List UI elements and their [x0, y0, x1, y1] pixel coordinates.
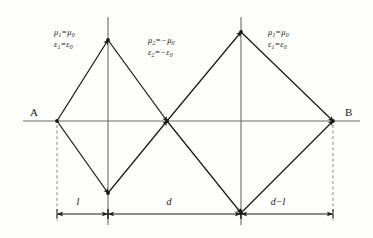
dimension-line-group	[57, 209, 333, 219]
ray-path-group	[57, 32, 333, 213]
node-left-bottom-vertex	[106, 191, 110, 195]
lower-right-segment-2	[241, 121, 333, 213]
upper-right-segment-2	[241, 32, 333, 121]
node-b	[331, 119, 335, 123]
lower-right-segment-1	[167, 121, 241, 213]
upper-left-segment-1	[57, 40, 108, 121]
node-a	[55, 119, 59, 123]
node-right-top-vertex	[239, 30, 243, 34]
node-left-top-vertex	[106, 38, 110, 42]
lower-left-segment-1	[57, 121, 108, 193]
upper-left-segment-2	[108, 40, 167, 121]
ray-diagram-figure: A B μ1=μ0ε1=ε0 μ2=−μ0ε2=−ε0 μ1=μ0ε1=ε0 l…	[0, 0, 373, 238]
dashed-extension-lines	[57, 125, 333, 221]
upper-right-segment-1	[167, 32, 241, 121]
lower-left-segment-2	[108, 121, 167, 193]
diagram-canvas	[0, 0, 373, 238]
node-center-focus	[165, 119, 169, 123]
